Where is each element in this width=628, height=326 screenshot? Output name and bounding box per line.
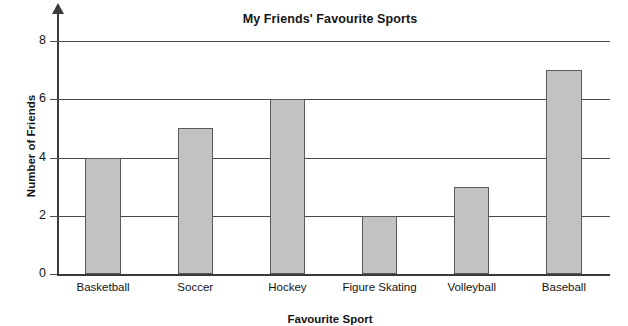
- bar-volleyball: [454, 187, 489, 274]
- bar-soccer: [178, 128, 213, 274]
- bar-basketball: [85, 158, 120, 274]
- category-label-hockey: Hockey: [241, 281, 333, 293]
- y-tick-label: 0: [20, 266, 46, 280]
- gridline: [57, 158, 610, 159]
- y-tick-mark: [50, 158, 57, 159]
- bar-baseball: [546, 70, 581, 274]
- category-label-soccer: Soccer: [149, 281, 241, 293]
- chart-title: My Friends' Favourite Sports: [140, 12, 520, 26]
- y-tick-label: 6: [20, 91, 46, 105]
- y-tick-mark: [50, 216, 57, 217]
- gridline: [57, 41, 610, 42]
- y-tick-mark: [50, 41, 57, 42]
- gridline: [57, 99, 610, 100]
- y-tick-mark: [50, 274, 57, 275]
- y-tick-label: 4: [20, 150, 46, 164]
- x-axis-line: [57, 274, 610, 276]
- category-label-figure-skating: Figure Skating: [334, 281, 426, 293]
- bar-hockey: [270, 99, 305, 274]
- x-axis-title: Favourite Sport: [180, 313, 480, 325]
- category-label-baseball: Baseball: [518, 281, 610, 293]
- y-tick-label: 8: [20, 33, 46, 47]
- category-label-basketball: Basketball: [57, 281, 149, 293]
- category-label-volleyball: Volleyball: [426, 281, 518, 293]
- bar-figure-skating: [362, 216, 397, 274]
- y-axis-line: [57, 12, 59, 275]
- bar-chart: My Friends' Favourite Sports Number of F…: [0, 0, 628, 326]
- gridline: [57, 216, 610, 217]
- y-tick-label: 2: [20, 208, 46, 222]
- y-tick-mark: [50, 99, 57, 100]
